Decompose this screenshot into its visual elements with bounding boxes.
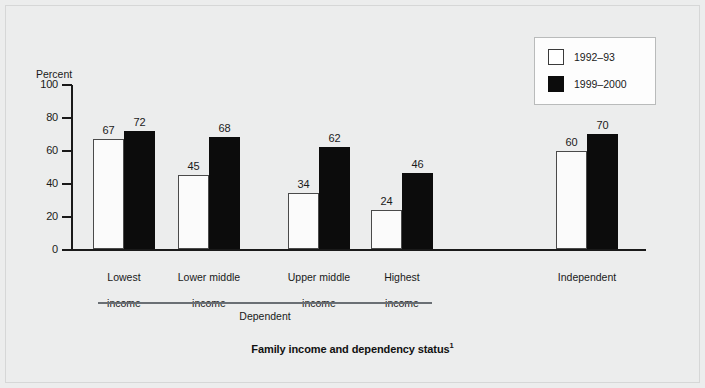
category-label-line2: income <box>352 297 452 310</box>
y-tick-label-60: 60 <box>24 144 58 156</box>
bar-highest-income-1999 <box>402 173 433 249</box>
bar-independent-1992 <box>556 151 587 249</box>
bar-value-independent-1999: 70 <box>587 119 618 131</box>
y-tick-100 <box>62 84 72 86</box>
y-tick-label-40: 40 <box>24 177 58 189</box>
legend: 1992–93 1999–2000 <box>534 37 656 105</box>
y-tick-80 <box>62 117 72 119</box>
y-tick-20 <box>62 216 72 218</box>
chart-figure: Percent 100 80 60 40 20 0 67 72 45 68 34… <box>0 0 705 388</box>
bar-independent-1999 <box>587 134 618 249</box>
category-label-independent: Independent <box>537 258 637 297</box>
category-label-line1: Highest <box>352 271 452 284</box>
y-tick-label-20: 20 <box>24 210 58 222</box>
legend-item-1999-2000: 1999–2000 <box>548 76 627 92</box>
bar-value-lowest-1999: 72 <box>124 116 155 128</box>
y-axis-line <box>71 85 73 250</box>
legend-swatch-black-square-icon <box>548 76 564 92</box>
category-label-line1: Lower middle <box>159 271 259 284</box>
bar-value-lowest-1992: 67 <box>93 124 124 136</box>
bar-value-lower-middle-1992: 45 <box>178 160 209 172</box>
y-tick-label-80: 80 <box>24 111 58 123</box>
dependent-bracket-line <box>98 302 432 304</box>
y-tick-0 <box>62 249 72 251</box>
legend-label-1999-2000: 1999–2000 <box>574 78 627 90</box>
bar-lowest-income-1999 <box>124 131 155 249</box>
bar-value-highest-1999: 46 <box>402 158 433 170</box>
x-axis-title-text: Family income and dependency status <box>251 343 449 355</box>
plot-area: Percent 100 80 60 40 20 0 67 72 45 68 34… <box>0 0 705 388</box>
bar-value-independent-1992: 60 <box>556 136 587 148</box>
x-axis-title: Family income and dependency status1 <box>0 341 705 355</box>
bar-value-highest-1992: 24 <box>371 195 402 207</box>
bar-value-upper-middle-1992: 34 <box>288 178 319 190</box>
bar-lower-middle-income-1999 <box>209 137 240 249</box>
y-tick-60 <box>62 150 72 152</box>
bar-upper-middle-income-1999 <box>319 147 350 249</box>
bar-value-upper-middle-1999: 62 <box>319 132 350 144</box>
legend-swatch-white-square-icon <box>548 49 564 65</box>
bar-lower-middle-income-1992 <box>178 175 209 249</box>
dependent-bracket-label: Dependent <box>98 310 432 322</box>
legend-item-1992-93: 1992–93 <box>548 49 615 65</box>
category-label-line1: Independent <box>537 271 637 284</box>
y-tick-label-0: 0 <box>24 243 58 255</box>
bar-value-lower-middle-1999: 68 <box>209 122 240 134</box>
category-label-line2: income <box>159 297 259 310</box>
bar-upper-middle-income-1992 <box>288 193 319 249</box>
x-axis-line <box>71 249 646 251</box>
bar-lowest-income-1992 <box>93 139 124 249</box>
x-axis-title-footnote: 1 <box>450 341 454 350</box>
y-tick-40 <box>62 183 72 185</box>
y-tick-label-100: 100 <box>24 78 58 90</box>
bar-highest-income-1992 <box>371 210 402 249</box>
legend-label-1992-93: 1992–93 <box>574 51 615 63</box>
